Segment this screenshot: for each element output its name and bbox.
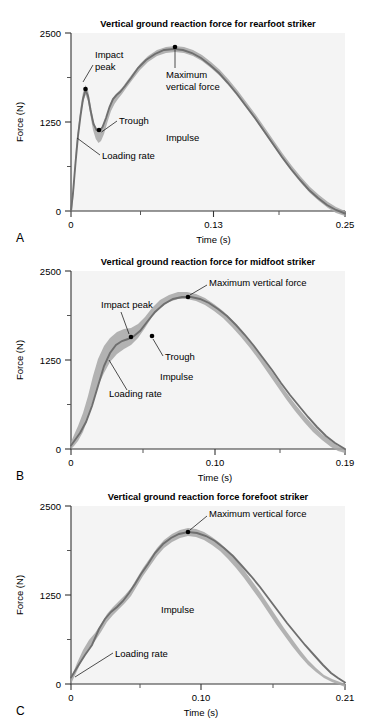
marker-maximum-vertical-force-a: [173, 45, 178, 50]
x-axis-label-c: Time (s): [184, 707, 218, 718]
annotation-loading-rate-c: Loading rate: [115, 648, 168, 659]
y-tick-label-a-0: 2500: [40, 28, 61, 39]
annotation-impulse-a: Impulse: [166, 132, 199, 143]
marker-impact-peak-a: [83, 87, 88, 92]
panel-b: Vertical ground reaction force for midfo…: [0, 250, 376, 485]
chart-title-a: Vertical ground reaction force for rearf…: [100, 19, 316, 29]
annotation-loading-rate-b: Loading rate: [109, 388, 162, 399]
y-tick-label-a-1: 1250: [40, 117, 61, 128]
marker-maximum-vertical-force-b: [186, 295, 191, 300]
annotation-trough-a: Trough: [119, 115, 149, 126]
x-tick-label-b-1: 0.10: [206, 457, 225, 468]
annotation-impulse-c: Impulse: [161, 604, 194, 615]
panel-label-a: A: [16, 231, 24, 245]
annotation-impact-peak-line1: Impact: [95, 49, 124, 60]
chart-c: Vertical ground reaction force forefoot …: [0, 485, 376, 720]
annotation-impact-peak-b: Impact peak: [101, 299, 153, 310]
chart-a: Vertical ground reaction force for rearf…: [0, 0, 376, 250]
marker-trough-a: [97, 128, 102, 133]
y-tick-label-c-0: 2500: [40, 501, 61, 512]
annotation-trough-b: Trough: [165, 351, 195, 362]
y-tick-label-b-2: 0: [56, 444, 61, 455]
panel-a: Vertical ground reaction force for rearf…: [0, 0, 376, 250]
panel-label-b: B: [16, 469, 24, 483]
x-tick-label-b-0: 0: [68, 457, 73, 468]
y-axis-label-a: Force (N): [14, 102, 25, 142]
y-tick-label-c-2: 0: [56, 679, 61, 690]
panel-label-c: C: [16, 704, 25, 718]
annotation-maximum-vertical-force-line2: vertical force: [166, 81, 220, 92]
y-tick-label-b-0: 2500: [40, 266, 61, 277]
chart-title-c: Vertical ground reaction force forefoot …: [108, 492, 309, 502]
annotation-impact-peak-line2: peak: [95, 61, 116, 72]
marker-maximum-vertical-force-c: [186, 530, 191, 535]
y-axis-label-b: Force (N): [14, 340, 25, 380]
x-axis-label-a: Time (s): [196, 234, 230, 245]
annotation-maximum-vertical-force-c: Maximum vertical force: [209, 508, 307, 519]
x-tick-label-c-2: 0.21: [336, 692, 355, 703]
y-tick-label-c-1: 1250: [40, 590, 61, 601]
y-axis-label-c: Force (N): [14, 575, 25, 615]
panel-c: Vertical ground reaction force forefoot …: [0, 485, 376, 720]
x-tick-label-c-1: 0.10: [192, 692, 211, 703]
x-tick-label-b-2: 0.19: [336, 457, 355, 468]
chart-b: Vertical ground reaction force for midfo…: [0, 250, 376, 485]
x-tick-label-a-0: 0: [68, 219, 73, 230]
y-tick-label-b-1: 1250: [40, 355, 61, 366]
marker-trough-b: [150, 334, 155, 339]
x-axis-label-b: Time (s): [198, 472, 232, 483]
y-tick-label-a-2: 0: [56, 206, 61, 217]
annotation-maximum-vertical-force-line1: Maximum: [166, 69, 207, 80]
x-tick-label-c-0: 0: [68, 692, 73, 703]
chart-title-b: Vertical ground reaction force for midfo…: [101, 257, 316, 267]
marker-impact-peak-b: [129, 335, 134, 340]
annotation-loading-rate-a: Loading rate: [102, 150, 155, 161]
x-tick-label-a-1: 0.13: [204, 219, 223, 230]
plot-area-b: [71, 271, 345, 449]
annotation-maximum-vertical-force-b: Maximum vertical force: [209, 277, 307, 288]
x-tick-label-a-2: 0.25: [336, 219, 355, 230]
annotation-impulse-b: Impulse: [160, 371, 193, 382]
